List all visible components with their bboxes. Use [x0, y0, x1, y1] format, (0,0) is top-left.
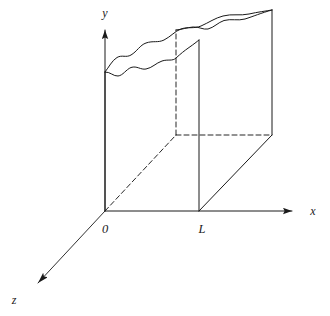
inner-rough-ridge-curve — [176, 10, 272, 30]
back-rough-surface-curve — [105, 10, 272, 72]
figure-container: x y z 0 L — [0, 0, 330, 316]
bottom-left-diagonal-edge — [105, 135, 176, 211]
three-d-axes-figure: x y z 0 L — [0, 0, 330, 316]
z-axis-line — [38, 211, 105, 283]
y-axis-label: y — [101, 6, 108, 20]
origin-tick-label: 0 — [102, 222, 109, 236]
front-rough-surface-curve — [105, 40, 199, 76]
length-tick-label: L — [198, 222, 206, 236]
z-axis-label: z — [11, 293, 17, 307]
x-axis-label: x — [309, 204, 316, 218]
bottom-right-diagonal-edge — [199, 135, 272, 211]
